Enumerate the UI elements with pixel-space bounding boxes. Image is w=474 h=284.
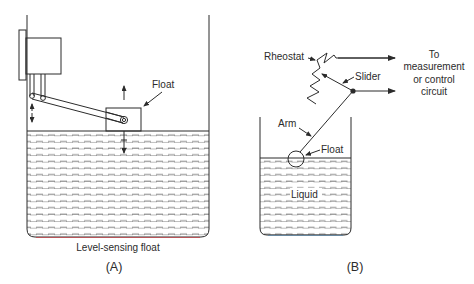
level-sensing-diagram: Float Level-sensing float (A) Liquid xyxy=(0,0,474,284)
rheostat-body xyxy=(307,60,320,104)
arm-leader xyxy=(299,128,311,136)
mounting-plate xyxy=(19,30,26,80)
panel-b: Liquid Rheostat Slider Arm Float To meas… xyxy=(260,49,465,274)
panel-label-b: (B) xyxy=(347,260,364,274)
slider-wiper xyxy=(322,74,353,91)
panel-a: Float Level-sensing float (A) xyxy=(19,15,209,274)
liquid-label: Liquid xyxy=(291,189,318,200)
liquid-a xyxy=(27,131,209,237)
caption-a: Level-sensing float xyxy=(76,242,160,253)
slider-leader xyxy=(343,77,354,83)
panel-label-a: (A) xyxy=(106,260,123,274)
float-pivot-icon xyxy=(120,116,127,123)
slider-label: Slider xyxy=(355,71,381,82)
svg-text:or control: or control xyxy=(413,74,455,85)
svg-text:circuit: circuit xyxy=(421,86,447,97)
arm-label: Arm xyxy=(278,118,296,129)
float-leader-a xyxy=(144,92,162,106)
svg-text:To: To xyxy=(429,49,440,60)
float-label-a: Float xyxy=(152,79,174,90)
rheostat-label: Rheostat xyxy=(264,51,304,62)
svg-text:measurement: measurement xyxy=(403,61,464,72)
switch-housing xyxy=(26,38,61,74)
float-arm xyxy=(300,91,353,152)
output-destination-label: To measurement or control circuit xyxy=(403,49,464,97)
float-leader-b xyxy=(306,150,320,155)
float-label-b: Float xyxy=(321,144,343,155)
rheostat-leader xyxy=(308,58,315,60)
